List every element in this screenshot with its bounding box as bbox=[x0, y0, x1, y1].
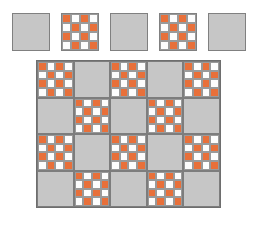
block-sample-row bbox=[12, 13, 246, 51]
quilt-block-r1-c4 bbox=[183, 98, 220, 135]
patch-cell-r2-c3 bbox=[137, 79, 146, 88]
patch-cell-r2-c3 bbox=[64, 79, 73, 88]
patch-cell-r1-c0 bbox=[75, 107, 84, 116]
patch-cell-r0-c3 bbox=[64, 135, 73, 144]
solid-gray-block bbox=[110, 13, 148, 51]
patch-cell-r0-c2 bbox=[128, 62, 137, 71]
patch-cell-r2-c1 bbox=[47, 79, 56, 88]
patch-cell-r2-c2 bbox=[128, 152, 137, 161]
patch-cell-r2-c3 bbox=[187, 32, 196, 41]
quilt-block-r2-c3 bbox=[147, 134, 184, 171]
patch-cell-r0-c3 bbox=[101, 172, 110, 181]
patch-cell-r3-c2 bbox=[202, 88, 211, 97]
quilt-block-r0-c0 bbox=[37, 61, 74, 98]
checkerboard-block bbox=[159, 13, 197, 51]
patch-cell-r2-c1 bbox=[83, 116, 92, 125]
patch-cell-r3-c1 bbox=[156, 197, 165, 206]
patch-cell-r2-c3 bbox=[101, 116, 110, 125]
patch-cell-r3-c0 bbox=[75, 197, 84, 206]
patch-cell-r1-c2 bbox=[128, 71, 137, 80]
patch-cell-r0-c1 bbox=[169, 14, 178, 23]
patch-cell-r0-c0 bbox=[148, 172, 157, 181]
patch-cell-r1-c3 bbox=[89, 23, 98, 32]
quilt-block-r3-c3 bbox=[147, 171, 184, 208]
patch-cell-r3-c0 bbox=[111, 161, 120, 170]
patch-cell-r1-c1 bbox=[169, 23, 178, 32]
patch-cell-r3-c2 bbox=[178, 41, 187, 50]
patch-cell-r2-c3 bbox=[174, 116, 183, 125]
patch-cell-r1-c1 bbox=[120, 144, 129, 153]
patch-cell-r2-c1 bbox=[71, 32, 80, 41]
patch-cell-r3-c0 bbox=[148, 197, 157, 206]
patch-cell-r1-c2 bbox=[178, 23, 187, 32]
patch-cell-r2-c1 bbox=[47, 152, 56, 161]
patch-cell-r3-c0 bbox=[148, 124, 157, 133]
patch-cell-r0-c2 bbox=[92, 99, 101, 108]
patch-cell-r0-c0 bbox=[62, 14, 71, 23]
patch-cell-r1-c0 bbox=[38, 71, 47, 80]
patch-cell-r2-c0 bbox=[148, 116, 157, 125]
patch-cell-r1-c1 bbox=[156, 180, 165, 189]
quilt-block-r1-c1 bbox=[74, 98, 111, 135]
patch-cell-r2-c3 bbox=[174, 189, 183, 198]
patch-cell-r2-c2 bbox=[165, 189, 174, 198]
patch-cell-r3-c1 bbox=[193, 161, 202, 170]
patch-cell-r1-c0 bbox=[111, 144, 120, 153]
patch-cell-r2-c2 bbox=[178, 32, 187, 41]
patch-cell-r1-c1 bbox=[71, 23, 80, 32]
patch-cell-r1-c1 bbox=[83, 107, 92, 116]
patch-cell-r3-c2 bbox=[165, 124, 174, 133]
patch-cell-r1-c2 bbox=[165, 107, 174, 116]
patch-cell-r1-c1 bbox=[193, 144, 202, 153]
patch-cell-r1-c0 bbox=[75, 180, 84, 189]
patch-cell-r1-c2 bbox=[92, 107, 101, 116]
patch-cell-r2-c3 bbox=[137, 152, 146, 161]
patch-cell-r0-c2 bbox=[202, 135, 211, 144]
patch-cell-r3-c2 bbox=[92, 124, 101, 133]
patch-cell-r1-c2 bbox=[55, 71, 64, 80]
patch-cell-r0-c0 bbox=[111, 62, 120, 71]
patch-cell-r0-c1 bbox=[71, 14, 80, 23]
patch-cell-r0-c3 bbox=[64, 62, 73, 71]
patch-cell-r1-c0 bbox=[62, 23, 71, 32]
patch-cell-r2-c1 bbox=[120, 152, 129, 161]
patch-cell-r1-c3 bbox=[64, 144, 73, 153]
patch-cell-r0-c0 bbox=[184, 62, 193, 71]
patch-cell-r1-c1 bbox=[83, 180, 92, 189]
patch-cell-r2-c2 bbox=[128, 79, 137, 88]
patch-cell-r2-c0 bbox=[184, 79, 193, 88]
patch-cell-r3-c3 bbox=[101, 197, 110, 206]
patch-cell-r3-c2 bbox=[202, 161, 211, 170]
patch-cell-r2-c1 bbox=[156, 116, 165, 125]
patch-cell-r0-c1 bbox=[120, 135, 129, 144]
patch-cell-r1-c3 bbox=[210, 71, 219, 80]
patch-cell-r0-c2 bbox=[92, 172, 101, 181]
patch-cell-r3-c3 bbox=[174, 124, 183, 133]
patch-cell-r0-c2 bbox=[165, 99, 174, 108]
patch-cell-r2-c2 bbox=[165, 116, 174, 125]
patch-cell-r3-c1 bbox=[169, 41, 178, 50]
patch-cell-r0-c1 bbox=[83, 172, 92, 181]
patch-cell-r1-c2 bbox=[202, 144, 211, 153]
patch-cell-r3-c2 bbox=[55, 161, 64, 170]
patch-cell-r0-c0 bbox=[160, 14, 169, 23]
patch-cell-r2-c2 bbox=[202, 152, 211, 161]
patch-cell-r3-c1 bbox=[156, 124, 165, 133]
patch-cell-r3-c0 bbox=[184, 161, 193, 170]
patch-cell-r3-c1 bbox=[120, 88, 129, 97]
diagram-canvas bbox=[0, 0, 253, 226]
patch-cell-r3-c1 bbox=[47, 88, 56, 97]
patch-cell-r0-c0 bbox=[111, 135, 120, 144]
patch-cell-r3-c3 bbox=[89, 41, 98, 50]
patch-cell-r2-c0 bbox=[111, 79, 120, 88]
quilt-layout bbox=[36, 60, 221, 208]
patch-cell-r3-c1 bbox=[83, 124, 92, 133]
patch-cell-r0-c2 bbox=[80, 14, 89, 23]
patch-cell-r3-c1 bbox=[83, 197, 92, 206]
patch-cell-r1-c2 bbox=[80, 23, 89, 32]
patch-cell-r3-c1 bbox=[71, 41, 80, 50]
quilt-block-r0-c2 bbox=[110, 61, 147, 98]
patch-cell-r3-c3 bbox=[210, 88, 219, 97]
quilt-block-r2-c4 bbox=[183, 134, 220, 171]
quilt-block-r3-c2 bbox=[110, 171, 147, 208]
